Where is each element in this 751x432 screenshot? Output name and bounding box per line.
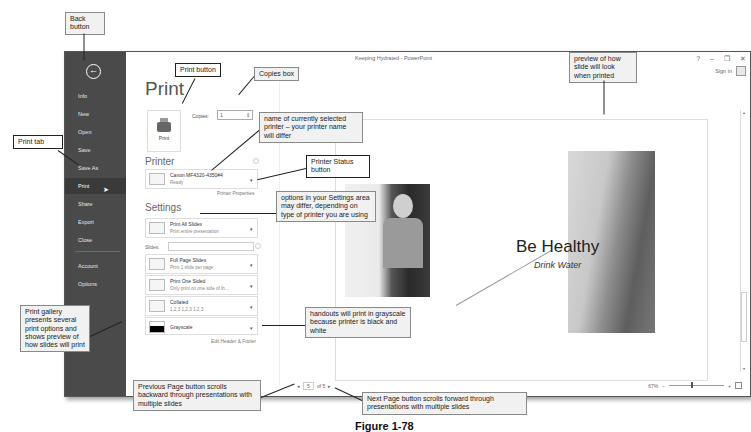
setting-title: Collated [170,299,188,305]
nav-print-label: Print [78,183,89,189]
callout-next-page: Next Page button scrolls forward through… [362,392,527,415]
setting-subtitle: 1,2,3 1,2,3 1,2,3 [170,307,203,312]
sides-dropdown[interactable]: Print One Sided Only print on one side o… [145,275,258,295]
print-preview: Be Healthy Drink Water [335,119,708,381]
nav-account[interactable]: Account [65,258,126,274]
callout-print-button: Print button [175,63,221,77]
scroll-up-icon[interactable]: ▴ [741,110,747,116]
setting-subtitle: Print 1 slide per page [170,265,213,270]
chevron-down-icon[interactable]: ▾ [250,325,253,331]
current-page-input[interactable]: 5 [303,382,314,390]
title-bar: Keeping Hydrated - PowerPoint ? – ❐ ✕ Si… [65,52,750,66]
print-button[interactable]: Print [147,110,181,152]
copies-label: Copies: [192,113,209,119]
slide-line-graphic [456,250,552,306]
nav-info[interactable]: Info [65,88,126,104]
scroll-down-icon[interactable]: ▾ [741,366,747,372]
restore-icon[interactable]: ❐ [724,55,730,63]
page-title: Print [145,78,184,100]
slides-input[interactable] [168,242,254,251]
chevron-down-icon[interactable]: ▾ [250,226,253,232]
scroll-thumb[interactable] [741,292,747,342]
color-dropdown[interactable]: Grayscale ▾ [145,317,258,335]
callout-preview: preview of how slide will look when prin… [569,52,637,83]
info-icon[interactable] [255,243,261,249]
nav-print[interactable]: Print ➤ [65,178,126,194]
print-button-label: Print [159,135,169,141]
chevron-down-icon[interactable]: ▾ [250,283,253,289]
slide-subtitle: Drink Water [534,260,581,270]
callout-grayscale: handouts will print in grayscale because… [305,307,411,338]
minimize-icon[interactable]: – [710,55,714,63]
setting-title: Grayscale [170,324,193,330]
slides-icon [149,222,165,234]
callout-print-tab: Print tab [13,135,63,149]
printer-dropdown[interactable]: Canon MF4320-4350#4 Ready ▾ [145,169,258,189]
zoom-in-button[interactable]: + [728,383,731,389]
slide-title: Be Healthy [516,237,599,257]
info-icon[interactable] [253,158,259,164]
nav-export[interactable]: Export [65,214,126,230]
settings-heading: Settings [145,202,181,213]
setting-subtitle: Only print on one side of th... [170,286,229,291]
collated-icon [149,300,165,312]
one-sided-icon [149,279,165,291]
chevron-down-icon[interactable]: ▾ [250,177,253,183]
page-total: of 5 [317,383,325,389]
avatar-icon [736,66,746,76]
callout-print-gallery: Print gallery presents several print opt… [20,305,90,352]
zoom-slider-thumb[interactable] [691,382,693,388]
window-title: Keeping Hydrated - PowerPoint [355,55,432,61]
powerpoint-window: Keeping Hydrated - PowerPoint ? – ❐ ✕ Si… [64,51,751,397]
nav-options[interactable]: Options [65,276,126,292]
callout-arrow [262,325,305,326]
nav-share[interactable]: Share [65,196,126,212]
printer-icon [157,122,171,132]
setting-subtitle: Print entire presentation [170,229,219,234]
zoom-slider[interactable] [669,385,724,386]
chevron-down-icon[interactable]: ▾ [250,304,253,310]
close-icon[interactable]: ✕ [740,55,746,63]
nav-open[interactable]: Open [65,124,126,140]
help-icon[interactable]: ? [696,55,700,63]
nav-save[interactable]: Save [65,142,126,158]
print-range-dropdown[interactable]: Print All Slides Print entire presentati… [145,218,258,238]
callout-printer-status: Printer Status button [306,155,370,178]
printer-heading: Printer [145,156,174,167]
page-navigator: ◂ 5 of 5 ▸ [297,382,331,390]
collation-dropdown[interactable]: Collated 1,2,3 1,2,3 1,2,3 ▾ [145,296,258,316]
zoom-level[interactable]: 67% [648,383,658,389]
setting-title: Full Page Slides [170,257,206,263]
preview-scrollbar[interactable]: ▴ ▾ [740,110,747,372]
window-controls: ? – ❐ ✕ [696,55,746,63]
printer-status: Ready [170,180,183,185]
fit-to-window-icon[interactable] [735,382,742,389]
nav-new[interactable]: New [65,106,126,122]
printer-icon [149,173,165,185]
callout-settings-options: options in your Settings area may differ… [276,191,376,222]
nav-close[interactable]: Close [65,232,126,248]
previous-page-button[interactable]: ◂ [297,383,300,389]
setting-title: Print All Slides [170,221,202,227]
slides-label: Slides: [145,245,159,250]
callout-copies-box: Copies box [254,67,299,81]
callout-previous-page: Previous Page button scrolls backward th… [133,380,261,411]
zoom-bar: 67% – + [648,382,742,389]
chevron-down-icon[interactable]: ▾ [250,262,253,268]
spinner-icon[interactable]: ⇕ [246,111,250,119]
copies-value: 1 [220,112,223,118]
copies-input[interactable]: 1 ⇕ [217,110,253,120]
back-arrow-icon[interactable]: ← [86,64,101,79]
printer-properties-link[interactable]: Printer Properties [217,191,254,196]
figure-caption: Figure 1-78 [355,420,414,432]
sign-in[interactable]: Sign in [715,66,746,76]
next-page-button[interactable]: ▸ [328,383,331,389]
callout-arrow [200,213,276,214]
photo-body [383,218,423,268]
grayscale-icon [149,321,165,333]
callout-back-button: Back button [65,12,105,35]
edit-header-footer-link[interactable]: Edit Header & Footer [211,339,256,344]
layout-dropdown[interactable]: Full Page Slides Print 1 slide per page … [145,254,258,274]
zoom-out-button[interactable]: – [662,383,665,389]
sign-in-link[interactable]: Sign in [715,68,732,74]
